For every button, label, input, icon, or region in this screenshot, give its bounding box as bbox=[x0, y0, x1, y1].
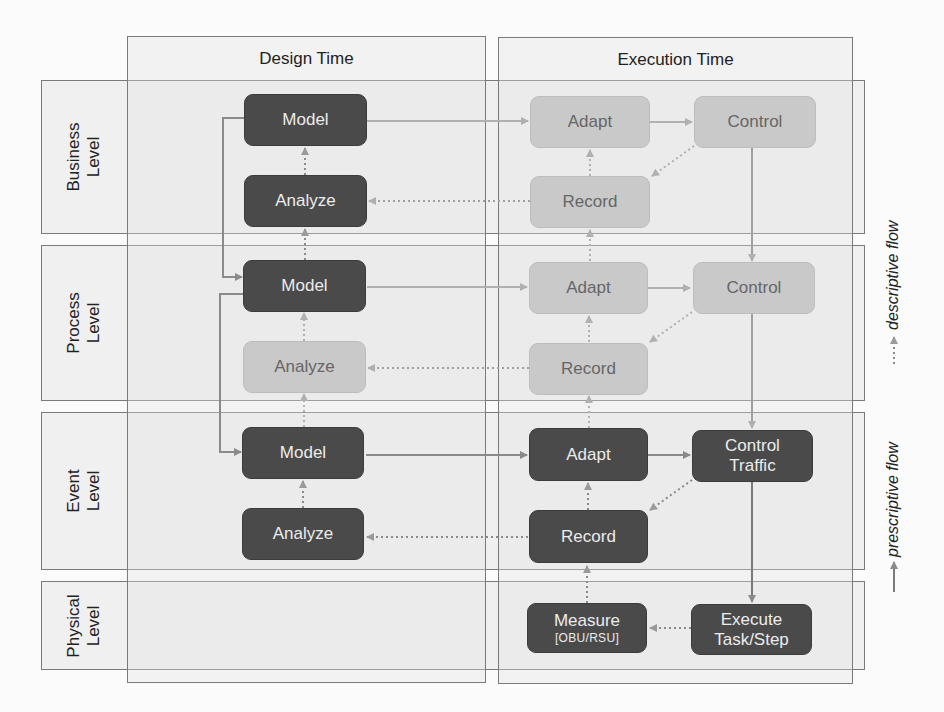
business-analyze-box: Analyze bbox=[244, 175, 367, 227]
physical-execute-box: Execute Task/Step bbox=[691, 604, 812, 655]
business-adapt-box: Adapt bbox=[530, 96, 650, 148]
arrow-event-control-to-record bbox=[650, 480, 692, 510]
physical-measure-box: Measure [OBU/RSU] bbox=[527, 603, 647, 653]
process-record-box: Record bbox=[529, 343, 648, 395]
arrow-business-model-to-process-model bbox=[223, 118, 244, 277]
arrow-business-control-to-record bbox=[652, 146, 694, 176]
process-analyze-box: Analyze bbox=[243, 341, 366, 393]
event-adapt-box: Adapt bbox=[529, 428, 648, 481]
business-control-box: Control bbox=[694, 96, 816, 148]
event-control-traffic-box: Control Traffic bbox=[692, 430, 813, 482]
business-record-box: Record bbox=[530, 176, 650, 228]
prescriptive-flow-legend: prescriptive flow bbox=[884, 442, 902, 557]
arrow-process-control-to-record bbox=[650, 312, 692, 342]
descriptive-flow-legend: descriptive flow bbox=[884, 221, 902, 330]
event-model-box: Model bbox=[242, 427, 364, 479]
process-model-box: Model bbox=[243, 260, 366, 312]
process-control-box: Control bbox=[693, 262, 815, 314]
process-adapt-box: Adapt bbox=[529, 262, 648, 314]
event-record-box: Record bbox=[529, 510, 648, 563]
business-model-box: Model bbox=[244, 94, 367, 146]
arrow-process-model-to-event-model bbox=[220, 294, 244, 452]
event-analyze-box: Analyze bbox=[242, 508, 364, 560]
